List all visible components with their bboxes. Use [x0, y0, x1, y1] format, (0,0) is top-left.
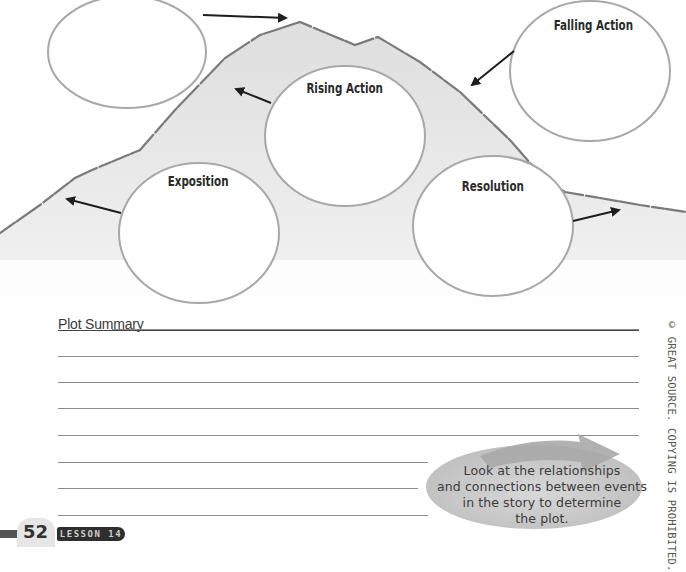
- rising-action-label: Rising Action: [306, 80, 383, 96]
- falling-action-arrow: [472, 51, 514, 85]
- summary-line-1[interactable]: [58, 330, 639, 331]
- callout-line-2: and connections between events: [432, 479, 652, 495]
- resolution-write-area[interactable]: [438, 200, 548, 288]
- summary-line-8[interactable]: [58, 515, 428, 516]
- exposition-label: Exposition: [168, 173, 229, 189]
- summary-line-6[interactable]: [58, 462, 428, 463]
- callout-line-4: the plot.: [432, 511, 652, 527]
- callout-line-3: in the story to determine: [432, 495, 652, 511]
- climax-arrow: [203, 15, 286, 18]
- summary-line-3[interactable]: [58, 382, 639, 383]
- summary-line-2[interactable]: [58, 356, 639, 357]
- summary-line-7[interactable]: [58, 488, 418, 489]
- page-number: 52: [23, 521, 48, 542]
- callout-text: Look at the relationships and connection…: [432, 463, 652, 527]
- callout-line-1: Look at the relationships: [432, 463, 652, 479]
- exposition-write-area[interactable]: [144, 196, 254, 291]
- summary-line-1-extension[interactable]: [112, 329, 639, 330]
- rising-action-write-area[interactable]: [290, 102, 400, 192]
- resolution-label: Resolution: [462, 178, 524, 194]
- copyright-notice: © GREAT SOURCE. COPYING IS PROHIBITED.: [666, 318, 678, 572]
- summary-line-4[interactable]: [58, 408, 639, 409]
- climax-write-area[interactable]: [70, 10, 185, 95]
- falling-action-write-area[interactable]: [535, 40, 645, 130]
- lesson-badge: LESSON 14: [57, 527, 125, 541]
- falling-action-label: Falling Action: [554, 17, 633, 33]
